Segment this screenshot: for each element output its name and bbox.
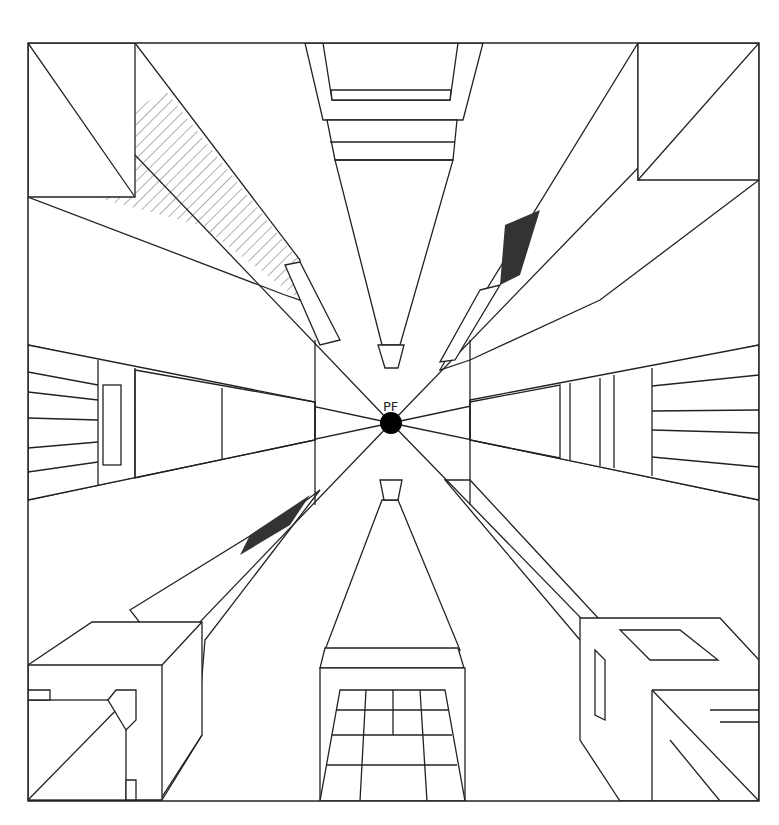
top-center-tower <box>305 43 483 368</box>
bottom-right-tower <box>445 480 759 801</box>
top-left-tower <box>28 43 340 345</box>
vanishing-point-dot <box>380 412 402 434</box>
vanishing-point: PF <box>380 399 402 434</box>
left-middle-building <box>28 340 315 505</box>
right-middle-building <box>470 340 759 505</box>
vanishing-point-label: PF <box>383 399 398 414</box>
bottom-left-tower <box>28 490 320 800</box>
top-right-tower <box>440 43 759 370</box>
perspective-drawing: PF <box>0 0 779 825</box>
bottom-center-tower <box>320 480 465 801</box>
